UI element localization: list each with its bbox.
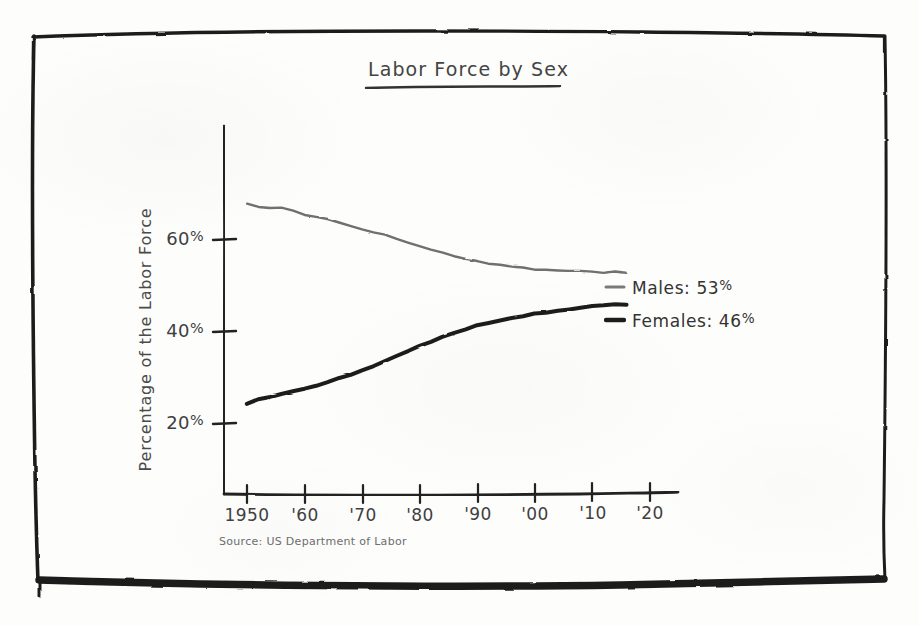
title-underline [366, 86, 560, 88]
x-tick-label-2000: '00 [510, 504, 560, 524]
series-label-females: Females: 46% [632, 310, 755, 331]
y-tick-20 [213, 423, 236, 424]
y-tick-60 [213, 239, 236, 240]
x-tick-label-2020: '20 [625, 503, 675, 523]
chart-board: Labor Force by Sex Percentage of the Lab… [0, 0, 918, 626]
x-tick-label-1980: '80 [395, 505, 445, 525]
x-tick-label-1970: '70 [338, 505, 388, 525]
y-tick-label-40: 40% [134, 320, 204, 341]
screenshot-root: Labor Force by Sex Percentage of the Lab… [0, 0, 918, 626]
series-lines [247, 204, 627, 404]
source-note: Source: US Department of Labor [219, 535, 407, 548]
series-label-males: Males: 53% [632, 277, 733, 298]
x-tick-label-2010: '10 [568, 503, 618, 523]
x-tick-label-1960: '60 [280, 505, 330, 525]
x-tick-label-1990: '90 [453, 504, 503, 524]
x-tick-label-1950: 1950 [217, 505, 277, 525]
chart-title: Labor Force by Sex [368, 58, 569, 80]
y-tick-label-20: 20% [134, 412, 204, 433]
y-tick-40 [213, 331, 236, 332]
line-series-females [247, 304, 627, 404]
line-series-males [247, 204, 626, 273]
y-tick-label-60: 60% [134, 228, 204, 249]
x-axis [224, 492, 678, 495]
